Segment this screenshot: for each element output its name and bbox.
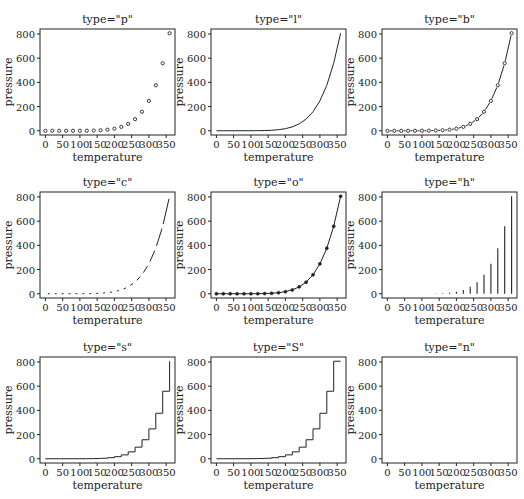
y-tick-label: 800 <box>16 192 35 203</box>
x-tick-label: 250 <box>293 139 312 150</box>
y-axis-label: pressure <box>173 221 186 270</box>
chart-panel-b: type="b"02004006008000501001502002503003… <box>344 13 518 164</box>
plot-frame <box>382 357 517 463</box>
x-tick-label: 200 <box>105 302 124 313</box>
x-tick-label: 50 <box>398 467 411 478</box>
y-axis-label: pressure <box>344 58 357 107</box>
x-axis-label: temperature <box>72 479 142 492</box>
chart-title: type="S" <box>253 341 304 354</box>
y-tick-label: 600 <box>187 381 206 392</box>
y-tick-label: 800 <box>358 29 377 40</box>
y-tick-label: 200 <box>187 102 206 113</box>
y-tick-label: 0 <box>371 126 377 137</box>
x-tick-label: 350 <box>157 139 176 150</box>
x-tick-label: 250 <box>293 467 312 478</box>
chart-panel-s: type="s"02004006008000501001502002503003… <box>2 341 176 492</box>
chart-title: type="l" <box>255 13 302 26</box>
y-tick-label: 600 <box>16 53 35 64</box>
x-tick-label: 100 <box>241 467 260 478</box>
x-tick-label: 150 <box>88 139 107 150</box>
x-tick-label: 0 <box>42 302 48 313</box>
x-tick-label: 50 <box>227 302 240 313</box>
y-tick-label: 0 <box>371 289 377 300</box>
y-tick-label: 0 <box>371 454 377 465</box>
x-tick-label: 150 <box>88 302 107 313</box>
data-series <box>48 199 169 294</box>
x-tick-label: 200 <box>447 302 466 313</box>
x-tick-label: 200 <box>276 139 295 150</box>
y-axis-label: pressure <box>2 386 15 435</box>
y-tick-label: 200 <box>16 102 35 113</box>
y-tick-label: 800 <box>358 357 377 368</box>
x-tick-label: 50 <box>398 139 411 150</box>
y-tick-label: 800 <box>187 357 206 368</box>
y-tick-label: 400 <box>358 240 377 251</box>
y-tick-label: 800 <box>187 192 206 203</box>
y-axis-label: pressure <box>344 386 357 435</box>
x-tick-label: 200 <box>105 139 124 150</box>
x-tick-label: 300 <box>310 139 329 150</box>
x-tick-label: 100 <box>70 139 89 150</box>
x-tick-label: 200 <box>276 467 295 478</box>
chart-panel-o: type="o"02004006008000501001502002503003… <box>173 176 347 327</box>
x-tick-label: 350 <box>157 302 176 313</box>
x-tick-label: 350 <box>328 139 347 150</box>
x-tick-label: 100 <box>70 467 89 478</box>
x-tick-label: 250 <box>122 467 141 478</box>
x-tick-label: 350 <box>499 139 518 150</box>
y-tick-label: 400 <box>187 77 206 88</box>
chart-title: type="o" <box>253 176 303 189</box>
x-tick-label: 300 <box>139 467 158 478</box>
x-tick-label: 0 <box>42 467 48 478</box>
plot-frame <box>211 29 346 135</box>
chart-panel-c: type="c"02004006008000501001502002503003… <box>2 176 176 327</box>
x-tick-label: 300 <box>481 302 500 313</box>
chart-title: type="n" <box>424 341 475 354</box>
y-tick-label: 0 <box>200 289 206 300</box>
x-tick-label: 150 <box>430 139 449 150</box>
x-axis-label: temperature <box>243 151 313 164</box>
x-tick-label: 100 <box>412 139 431 150</box>
y-tick-label: 0 <box>29 289 35 300</box>
x-tick-label: 0 <box>384 302 390 313</box>
x-tick-label: 50 <box>227 467 240 478</box>
y-tick-label: 600 <box>358 381 377 392</box>
y-axis-label: pressure <box>344 221 357 270</box>
x-tick-label: 0 <box>384 139 390 150</box>
x-tick-label: 200 <box>105 467 124 478</box>
chart-title: type="h" <box>424 176 475 189</box>
x-tick-label: 0 <box>384 467 390 478</box>
chart-panel-p: type="p"02004006008000501001502002503003… <box>2 13 176 164</box>
x-tick-label: 300 <box>481 467 500 478</box>
x-tick-label: 50 <box>56 139 69 150</box>
chart-panel-n: type="n"02004006008000501001502002503003… <box>344 341 518 492</box>
y-axis-label: pressure <box>2 221 15 270</box>
data-series <box>216 33 340 131</box>
x-tick-label: 300 <box>481 139 500 150</box>
y-axis-label: pressure <box>2 58 15 107</box>
y-tick-label: 600 <box>187 53 206 64</box>
x-tick-label: 0 <box>213 467 219 478</box>
x-tick-label: 50 <box>56 467 69 478</box>
chart-title: type="b" <box>424 13 475 26</box>
x-tick-label: 200 <box>447 467 466 478</box>
x-tick-label: 150 <box>259 302 278 313</box>
x-tick-label: 50 <box>398 302 411 313</box>
x-axis-label: temperature <box>243 314 313 327</box>
x-tick-label: 250 <box>464 139 483 150</box>
x-tick-label: 150 <box>259 467 278 478</box>
y-tick-label: 600 <box>187 216 206 227</box>
y-tick-label: 0 <box>29 126 35 137</box>
x-tick-label: 150 <box>88 467 107 478</box>
x-tick-label: 100 <box>241 302 260 313</box>
chart-title: type="c" <box>83 176 133 189</box>
y-tick-label: 800 <box>16 357 35 368</box>
x-tick-label: 100 <box>241 139 260 150</box>
x-tick-label: 250 <box>293 302 312 313</box>
y-tick-label: 0 <box>29 454 35 465</box>
x-tick-label: 300 <box>139 139 158 150</box>
y-tick-label: 400 <box>358 77 377 88</box>
x-axis-label: temperature <box>72 314 142 327</box>
data-series <box>386 32 513 133</box>
y-tick-label: 400 <box>187 240 206 251</box>
